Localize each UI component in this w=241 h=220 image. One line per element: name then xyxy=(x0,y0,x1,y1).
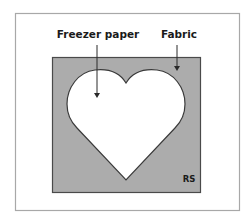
fabric-label: Fabric xyxy=(161,28,197,40)
freezer-paper-heart-diagram: Freezer paper Fabric RS xyxy=(0,0,241,220)
right-side-label: RS xyxy=(183,174,196,184)
freezer-paper-label: Freezer paper xyxy=(57,28,140,40)
